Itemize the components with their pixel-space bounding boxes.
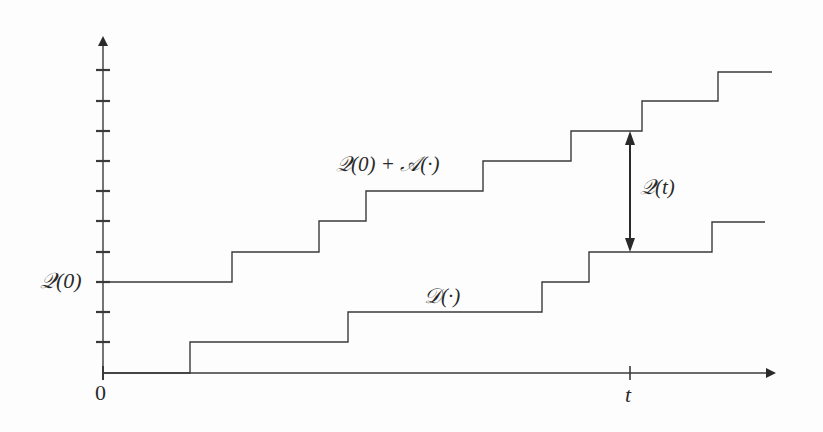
arrivals-curve-label: 𝒬(0) + 𝒜(·) bbox=[336, 152, 439, 177]
diagram-graphics bbox=[0, 0, 823, 432]
queue-length-label: 𝒬(t) bbox=[640, 175, 675, 200]
queue-diagram: 𝒬(0) 0 t 𝒬(0) + 𝒜(·) 𝒟(·) 𝒬(t) bbox=[0, 0, 823, 432]
queue-length-double-arrow-icon bbox=[625, 131, 635, 252]
y-label-q0: 𝒬(0) bbox=[40, 268, 82, 294]
axes bbox=[103, 38, 774, 380]
origin-label: 0 bbox=[95, 380, 106, 406]
departures-curve-label: 𝒟(·) bbox=[424, 284, 460, 309]
x-label-t: t bbox=[625, 382, 631, 408]
